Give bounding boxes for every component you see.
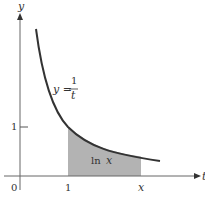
x-tick-label-1: 1 bbox=[65, 182, 71, 193]
x-axis-label: t bbox=[202, 170, 205, 183]
x-tick-label-x: x bbox=[138, 181, 145, 194]
ln-area-diagram: y t 0 1 1 x y = 1 t ln x bbox=[0, 0, 205, 200]
y-tick-label-1: 1 bbox=[11, 121, 17, 132]
x-axis-arrow-icon bbox=[194, 173, 201, 179]
shaded-area-ln-x bbox=[68, 127, 141, 176]
origin-label: 0 bbox=[11, 182, 17, 193]
curve-fraction-denominator: t bbox=[71, 89, 76, 102]
area-label-x: x bbox=[106, 154, 113, 167]
area-label-ln: ln bbox=[91, 155, 101, 166]
curve-fraction-numerator: 1 bbox=[71, 75, 77, 86]
y-axis-arrow-icon bbox=[17, 13, 23, 20]
y-axis-label: y bbox=[17, 0, 25, 13]
curve-equation-lhs: y = bbox=[52, 83, 72, 96]
